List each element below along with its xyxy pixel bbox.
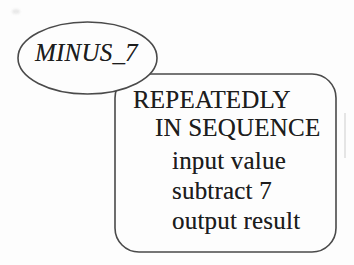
box-line-repeatedly: REPEATEDLY: [133, 87, 291, 112]
box-line-output-result: output result: [172, 208, 300, 233]
box-line-subtract-7: subtract 7: [172, 178, 272, 203]
scan-smudge-artifact: [12, 9, 20, 14]
ellipse-label: MINUS_7: [35, 40, 138, 65]
diagram-canvas: MINUS_7 REPEATEDLY IN SEQUENCE input val…: [0, 0, 354, 265]
box-line-input-value: input value: [172, 148, 286, 173]
box-line-in-sequence: IN SEQUENCE: [155, 115, 320, 140]
scan-line-artifact: [344, 113, 346, 158]
